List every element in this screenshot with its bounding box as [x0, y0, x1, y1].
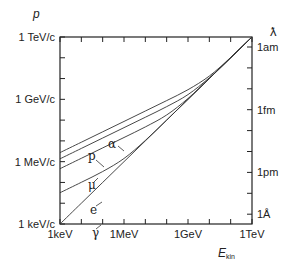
y-tick-label: 1 MeV/c — [15, 156, 56, 168]
y2-axis-title: ƛ — [270, 24, 277, 39]
y-axis-title: p — [32, 7, 40, 21]
momentum-energy-chart: αpμeγ 1keV1MeV1GeV1TeV 1 keV/c1 MeV/c1 G… — [0, 0, 291, 265]
y2-tick-label: 1Å — [257, 208, 271, 220]
x-tick-label: 1TeV — [239, 228, 265, 240]
curve-γ — [60, 37, 252, 224]
x-tick-label: 1GeV — [174, 228, 203, 240]
curve-label: α — [108, 137, 116, 151]
y2-tick-label: 1pm — [257, 166, 278, 178]
x-axis-title: Ekin — [218, 246, 235, 260]
label-leader-line — [118, 146, 124, 151]
y2-tick-label: 1am — [257, 41, 278, 53]
y-tick-label: 1 TeV/c — [19, 31, 56, 43]
y-tick-labels: 1 keV/c1 MeV/c1 GeV/c1 TeV/c — [15, 31, 56, 230]
x-tick-label: 1MeV — [110, 228, 139, 240]
curve-α — [60, 37, 252, 153]
curve-e — [60, 37, 252, 193]
curve-label: μ — [88, 178, 96, 192]
curve-label: p — [88, 149, 96, 163]
x-tick-labels: 1keV1MeV1GeV1TeV — [47, 228, 265, 240]
label-leader-line — [96, 160, 104, 167]
y2-tick-labels: 1am1fm1pm1Å — [257, 41, 278, 220]
curve-label: e — [90, 203, 97, 217]
y-tick-label: 1 keV/c — [18, 218, 55, 230]
curve-label: γ — [92, 226, 99, 240]
y-tick-label: 1 GeV/c — [15, 93, 55, 105]
y2-tick-label: 1fm — [257, 104, 275, 116]
curves — [60, 37, 252, 224]
curve-p — [60, 37, 252, 159]
x-axis-title-sub: kin — [226, 253, 235, 260]
